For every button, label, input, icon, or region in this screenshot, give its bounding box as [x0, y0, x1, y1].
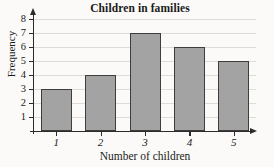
bar — [130, 33, 161, 131]
y-tick-label-wrap: 5 — [0, 55, 26, 67]
gridline — [34, 19, 256, 20]
y-tick-label: 6 — [4, 41, 26, 52]
y-tick-label: 5 — [4, 55, 26, 66]
y-tick-label-wrap: 6 — [0, 41, 26, 53]
y-tick-mark — [29, 19, 34, 20]
chart-title: Children in families — [60, 2, 220, 14]
bar-chart: Children in families Frequency Number of… — [0, 0, 274, 167]
x-axis-title: Number of children — [34, 150, 256, 162]
y-tick-label-wrap: 4 — [0, 69, 26, 81]
bar — [85, 75, 116, 131]
y-tick-mark — [29, 75, 34, 76]
y-tick-label: 8 — [4, 13, 26, 24]
x-tick-label: 5 — [224, 136, 244, 148]
plot-area — [34, 19, 256, 131]
x-tick-label: 3 — [135, 136, 155, 148]
y-tick-mark — [29, 47, 34, 48]
bar — [218, 61, 249, 131]
y-tick-label-wrap: 7 — [0, 27, 26, 39]
y-tick-label-wrap: 3 — [0, 83, 26, 95]
y-tick-label: 2 — [4, 97, 26, 108]
y-tick-label: 3 — [4, 83, 26, 94]
y-axis-arrow-icon — [30, 8, 36, 15]
x-tick-label: 2 — [91, 136, 111, 148]
y-tick-mark — [29, 103, 34, 104]
y-tick-label: 7 — [4, 27, 26, 38]
y-tick-label: 1 — [4, 111, 26, 122]
x-tick-label: 1 — [46, 136, 66, 148]
y-tick-label-wrap: 2 — [0, 97, 26, 109]
x-axis-arrow-icon — [250, 128, 257, 134]
y-tick-mark — [29, 61, 34, 62]
x-axis-line — [30, 131, 252, 132]
x-tick-label: 4 — [179, 136, 199, 148]
bar — [41, 89, 72, 131]
y-tick-mark — [29, 89, 34, 90]
y-tick-mark — [29, 33, 34, 34]
y-tick-label: 4 — [4, 69, 26, 80]
y-axis-line — [33, 14, 34, 134]
y-tick-mark — [29, 117, 34, 118]
y-tick-label-wrap: 8 — [0, 13, 26, 25]
bar — [174, 47, 205, 131]
y-tick-label-wrap: 1 — [0, 111, 26, 123]
